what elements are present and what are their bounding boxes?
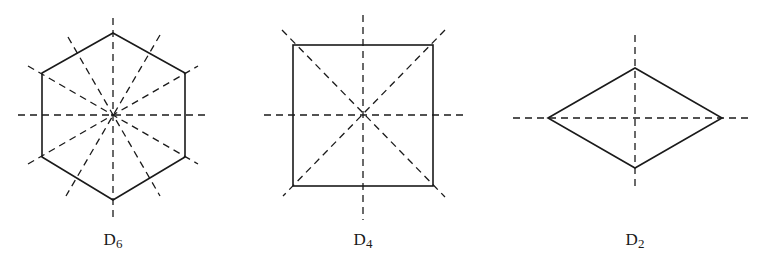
label-d6: D6 xyxy=(104,230,123,252)
square-figure xyxy=(264,15,463,220)
axis-diagonal-2 xyxy=(283,30,445,196)
label-d4: D4 xyxy=(354,230,373,252)
label-d2: D2 xyxy=(626,230,645,252)
axis-edge-diagonal-1 xyxy=(68,37,160,196)
rhombus-figure xyxy=(513,35,753,190)
hexagon-figure xyxy=(18,18,208,218)
hexagon-symmetry-axes xyxy=(18,18,208,218)
